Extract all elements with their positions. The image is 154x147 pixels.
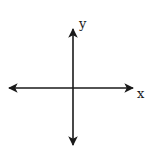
coordinate-axes-diagram: x y xyxy=(0,0,154,147)
x-axis-label: x xyxy=(137,86,145,101)
y-axis: y xyxy=(73,16,87,145)
y-axis-label: y xyxy=(78,16,87,31)
x-axis: x xyxy=(9,86,145,101)
